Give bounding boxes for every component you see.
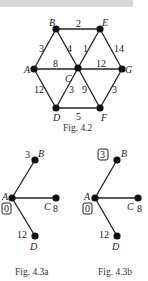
weight-A-D: 12 xyxy=(34,84,44,95)
weight-B-E: 2 xyxy=(76,18,81,29)
value-B: 3 xyxy=(100,149,105,160)
weight-G-F: 3 xyxy=(112,84,117,95)
weight-C-D: 3 xyxy=(69,84,74,95)
value-C: 8 xyxy=(137,203,142,214)
value-A: 0 xyxy=(4,203,9,214)
edge-A-B xyxy=(95,160,117,198)
node-F xyxy=(96,104,103,111)
caption-fig-4-3b: Fig. 4.3b xyxy=(98,267,132,277)
node-D xyxy=(113,232,120,239)
node-C xyxy=(74,64,81,71)
weight-A-C: 8 xyxy=(53,58,58,69)
node-label-C: C xyxy=(44,201,51,212)
node-A xyxy=(91,194,98,201)
weight-C-F: 9 xyxy=(82,84,87,95)
node-A xyxy=(8,194,15,201)
node-label-D: D xyxy=(111,241,120,252)
node-label-F: F xyxy=(100,112,108,123)
node-B xyxy=(113,156,120,163)
weight-C-E: 1 xyxy=(83,43,88,54)
value-B: 3 xyxy=(25,149,30,160)
node-D xyxy=(31,232,38,239)
node-label-B: B xyxy=(121,148,127,159)
node-label-D: D xyxy=(29,241,38,252)
weight-A-B: 3 xyxy=(39,43,44,54)
value-C: 8 xyxy=(53,203,58,214)
node-C xyxy=(134,194,141,201)
edge-A-B xyxy=(12,160,35,198)
weight-D-F: 5 xyxy=(76,111,81,122)
node-label-E: E xyxy=(101,17,108,28)
node-label-B: B xyxy=(49,17,55,28)
edge-G-F xyxy=(100,69,122,108)
node-label-A: A xyxy=(23,64,31,75)
caption-fig-4-3a: Fig. 4.3a xyxy=(15,267,49,277)
caption-fig-4-2: Fig. 4.2 xyxy=(63,123,93,133)
fig-4-2: A B C D E F G 3 2 4 1 14 8 12 12 3 9 3 5… xyxy=(23,17,132,133)
weight-E-G: 14 xyxy=(114,43,124,54)
node-A xyxy=(30,65,37,72)
diagram-canvas: A B C D E F G 3 2 4 1 14 8 12 12 3 9 3 5… xyxy=(0,0,148,281)
weight-B-C: 4 xyxy=(67,43,72,54)
node-label-A: A xyxy=(83,191,91,202)
node-label-G: G xyxy=(125,64,132,75)
node-label-B: B xyxy=(38,148,44,159)
node-C xyxy=(52,194,59,201)
node-D xyxy=(52,104,59,111)
fig-4-3a: A 0 3 B C 8 12 D Fig. 4.3a xyxy=(1,148,60,277)
node-label-D: D xyxy=(52,112,61,123)
value-D: 12 xyxy=(17,229,27,240)
value-A: 0 xyxy=(85,203,90,214)
value-D: 12 xyxy=(99,229,109,240)
node-label-C: C xyxy=(127,201,134,212)
node-label-C: C xyxy=(65,73,72,84)
weight-C-G: 12 xyxy=(96,58,106,69)
node-label-A: A xyxy=(1,191,9,202)
fig-4-3b: A 0 3 B C 8 12 D Fig. 4.3b xyxy=(83,148,142,277)
